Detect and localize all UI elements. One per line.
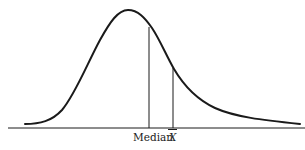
skewed-distribution-figure: Median X — [0, 0, 305, 150]
mean-overbar — [168, 129, 177, 130]
median-label: Median — [133, 131, 173, 143]
mean-label: X — [169, 131, 176, 143]
distribution-svg — [0, 0, 305, 150]
density-curve — [25, 10, 300, 124]
